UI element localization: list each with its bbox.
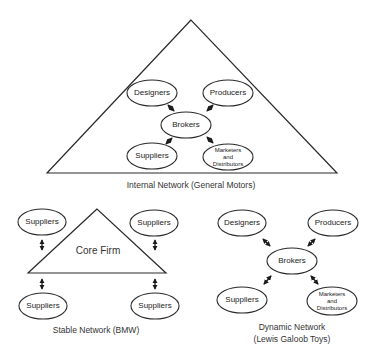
dynamic-network-subcaption: (Lewis Galoob Toys) bbox=[254, 334, 331, 344]
internal-node-brokers: Brokers bbox=[161, 112, 211, 138]
dynamic-designers-label: Designers bbox=[224, 218, 260, 227]
double-arrow-icon bbox=[308, 239, 315, 246]
dynamic-distributors-label: Distributors bbox=[317, 305, 347, 311]
stable-network: Core Firm Suppliers Suppliers Suppliers … bbox=[18, 209, 179, 335]
supplier-label: Suppliers bbox=[26, 301, 59, 310]
supplier-label: Suppliers bbox=[25, 217, 58, 226]
internal-node-designers: Designers bbox=[127, 80, 177, 106]
stable-node-suppliers-bottom-right: Suppliers bbox=[131, 293, 179, 319]
dynamic-producers-label: Producers bbox=[315, 218, 351, 227]
double-arrow-icon bbox=[168, 105, 174, 111]
stable-node-suppliers-top-left: Suppliers bbox=[18, 209, 66, 235]
internal-suppliers-label: Suppliers bbox=[135, 151, 168, 160]
internal-node-suppliers: Suppliers bbox=[127, 143, 177, 169]
internal-marketers-label: Marketers bbox=[215, 147, 242, 153]
internal-distributors-label: Distributors bbox=[213, 161, 243, 167]
dynamic-node-marketers: Marketers and Distributors bbox=[307, 287, 357, 315]
supplier-label: Suppliers bbox=[138, 301, 171, 310]
double-arrow-icon bbox=[166, 138, 172, 144]
double-arrow-icon bbox=[263, 239, 270, 246]
dynamic-brokers-label: Brokers bbox=[278, 256, 306, 265]
double-arrow-icon bbox=[311, 276, 318, 284]
internal-designers-label: Designers bbox=[134, 88, 170, 97]
dynamic-node-suppliers: Suppliers bbox=[217, 287, 267, 313]
dynamic-network: Designers Producers Brokers Suppliers Ma… bbox=[217, 210, 358, 344]
double-arrow-icon bbox=[207, 137, 213, 143]
stable-node-suppliers-bottom-left: Suppliers bbox=[19, 293, 67, 319]
supplier-label: Suppliers bbox=[137, 218, 170, 227]
dynamic-node-brokers: Brokers bbox=[267, 248, 317, 274]
double-arrow-icon bbox=[207, 105, 213, 111]
core-firm-label: Core Firm bbox=[76, 245, 120, 256]
dynamic-network-caption: Dynamic Network bbox=[259, 322, 326, 332]
internal-brokers-label: Brokers bbox=[172, 120, 200, 129]
double-arrow-icon bbox=[264, 276, 271, 284]
stable-network-caption: Stable Network (BMW) bbox=[53, 325, 140, 335]
dynamic-suppliers-label: Suppliers bbox=[225, 295, 258, 304]
internal-producers-label: Producers bbox=[210, 88, 246, 97]
internal-network: Designers Producers Brokers Suppliers Ma… bbox=[47, 20, 337, 190]
stable-node-suppliers-top-right: Suppliers bbox=[130, 210, 178, 236]
dynamic-node-designers: Designers bbox=[218, 210, 266, 236]
dynamic-node-producers: Producers bbox=[308, 210, 358, 236]
internal-and-label: and bbox=[223, 154, 233, 160]
dynamic-and-label: and bbox=[327, 298, 337, 304]
internal-node-marketers: Marketers and Distributors bbox=[203, 144, 253, 170]
network-diagram: Designers Producers Brokers Suppliers Ma… bbox=[0, 0, 378, 355]
internal-node-producers: Producers bbox=[203, 80, 253, 106]
dynamic-marketers-label: Marketers bbox=[319, 291, 346, 297]
internal-network-triangle bbox=[47, 20, 337, 173]
internal-network-caption: Internal Network (General Motors) bbox=[127, 180, 256, 190]
